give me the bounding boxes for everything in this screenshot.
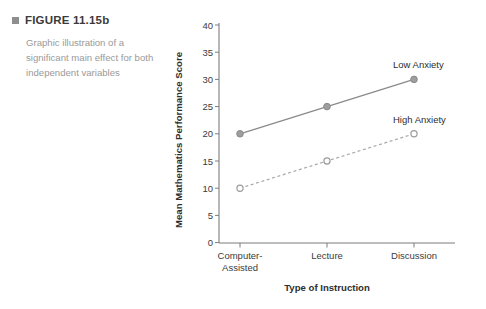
y-tick-label: 30 (202, 74, 213, 85)
y-tick-label: 40 (202, 20, 213, 31)
data-point (237, 185, 243, 191)
y-tick-label: 10 (202, 183, 213, 194)
x-tick-label-line2: Assisted (222, 262, 258, 273)
x-tick-label: Computer- (218, 250, 263, 261)
series-high-anxiety (237, 131, 417, 192)
y-tick-label: 15 (202, 156, 213, 167)
series-label-low-anxiety: Low Anxiety (393, 59, 444, 70)
x-tick-label: Discussion (391, 250, 437, 261)
chart: Mean Mathematics Performance Score 40 35… (170, 6, 486, 306)
series-label-high-anxiety: High Anxiety (393, 114, 446, 125)
figure-label: FIGURE 11.15b (25, 14, 109, 26)
x-axis-tick-labels: Computer- Assisted Lecture Discussion (218, 250, 437, 273)
data-point (411, 131, 417, 137)
y-axis-tick-labels: 40 35 30 25 20 15 10 5 0 (202, 20, 213, 249)
y-tick-label: 5 (208, 210, 213, 221)
figure-caption-block: FIGURE 11.15b Graphic illustration of a … (12, 14, 164, 81)
square-bullet-icon (12, 17, 19, 24)
x-tick-label: Lecture (311, 250, 343, 261)
y-tick-label: 35 (202, 47, 213, 58)
figure-container: FIGURE 11.15b Graphic illustration of a … (0, 0, 486, 309)
y-axis-ticks (215, 25, 219, 243)
line-chart-svg: Mean Mathematics Performance Score 40 35… (170, 6, 486, 306)
figure-description: Graphic illustration of a significant ma… (26, 35, 158, 81)
data-point (237, 131, 244, 138)
x-axis-title: Type of Instruction (284, 282, 370, 293)
y-axis-title: Mean Mathematics Performance Score (173, 52, 184, 228)
data-point (324, 103, 331, 110)
y-tick-label: 0 (208, 237, 213, 248)
x-axis-ticks (240, 243, 414, 248)
y-tick-label: 20 (202, 128, 213, 139)
data-point (411, 76, 418, 83)
y-tick-label: 25 (202, 101, 213, 112)
series-low-anxiety (237, 76, 418, 137)
data-point (324, 158, 330, 164)
figure-heading: FIGURE 11.15b (12, 14, 164, 26)
